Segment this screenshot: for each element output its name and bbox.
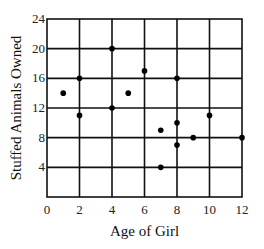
y-tick-label: 12 <box>32 100 45 115</box>
data-point <box>142 68 148 74</box>
data-point <box>207 113 213 119</box>
x-tick-label: 4 <box>109 202 116 217</box>
data-point <box>174 120 180 126</box>
data-point <box>125 90 131 96</box>
data-point <box>109 105 115 111</box>
data-point <box>158 165 164 171</box>
x-tick-label: 12 <box>236 202 249 217</box>
scatter-chart: 024681012 4812162024 Age of Girl Stuffed… <box>0 0 264 249</box>
data-point <box>239 135 245 141</box>
y-axis-ticks: 4812162024 <box>32 11 46 174</box>
x-axis-ticks: 024681012 <box>44 202 249 217</box>
data-point <box>77 76 83 82</box>
data-point <box>174 76 180 82</box>
x-tick-label: 6 <box>141 202 148 217</box>
y-tick-label: 20 <box>32 41 45 56</box>
data-point <box>60 90 66 96</box>
x-axis-label: Age of Girl <box>110 223 179 239</box>
grid-lines <box>47 19 242 197</box>
y-tick-label: 8 <box>39 130 46 145</box>
y-tick-label: 16 <box>32 70 46 85</box>
x-tick-label: 10 <box>203 202 216 217</box>
data-point <box>77 113 83 119</box>
data-point <box>190 135 196 141</box>
y-tick-label: 4 <box>39 159 46 174</box>
data-point <box>109 46 115 52</box>
x-tick-label: 2 <box>76 202 83 217</box>
y-axis-label: Stuffed Animals Owned <box>8 35 24 180</box>
x-tick-label: 0 <box>44 202 51 217</box>
data-point <box>174 142 180 148</box>
x-tick-label: 8 <box>174 202 181 217</box>
data-point <box>158 127 164 133</box>
y-tick-label: 24 <box>32 11 46 26</box>
